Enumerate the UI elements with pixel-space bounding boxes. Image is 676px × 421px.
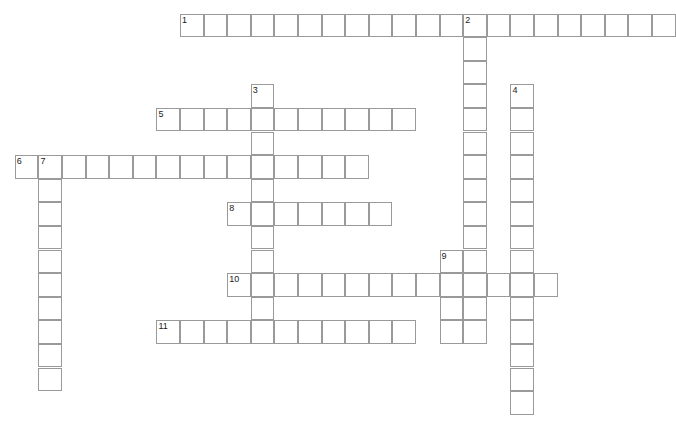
crossword-cell[interactable] bbox=[322, 108, 346, 132]
crossword-cell[interactable] bbox=[251, 273, 275, 297]
crossword-cell[interactable] bbox=[510, 226, 534, 250]
crossword-cell[interactable] bbox=[463, 37, 487, 61]
crossword-cell[interactable] bbox=[392, 108, 416, 132]
crossword-cell[interactable] bbox=[227, 155, 251, 179]
crossword-cell[interactable] bbox=[204, 320, 228, 344]
crossword-cell[interactable] bbox=[298, 155, 322, 179]
crossword-cell[interactable] bbox=[534, 14, 558, 38]
crossword-cell[interactable] bbox=[463, 61, 487, 85]
crossword-cell[interactable] bbox=[440, 250, 464, 274]
crossword-cell[interactable] bbox=[227, 14, 251, 38]
crossword-cell[interactable] bbox=[463, 273, 487, 297]
crossword-cell[interactable] bbox=[38, 202, 62, 226]
crossword-cell[interactable] bbox=[392, 14, 416, 38]
crossword-cell[interactable] bbox=[298, 320, 322, 344]
crossword-cell[interactable] bbox=[628, 14, 652, 38]
crossword-cell[interactable] bbox=[510, 155, 534, 179]
crossword-cell[interactable] bbox=[156, 108, 180, 132]
crossword-cell[interactable] bbox=[345, 108, 369, 132]
crossword-cell[interactable] bbox=[322, 320, 346, 344]
crossword-cell[interactable] bbox=[274, 320, 298, 344]
crossword-cell[interactable] bbox=[345, 273, 369, 297]
crossword-cell[interactable] bbox=[322, 155, 346, 179]
crossword-cell[interactable] bbox=[180, 320, 204, 344]
crossword-cell[interactable] bbox=[463, 179, 487, 203]
crossword-cell[interactable] bbox=[652, 14, 676, 38]
crossword-cell[interactable] bbox=[227, 320, 251, 344]
crossword-cell[interactable] bbox=[38, 320, 62, 344]
crossword-cell[interactable] bbox=[298, 14, 322, 38]
crossword-cell[interactable] bbox=[109, 155, 133, 179]
crossword-cell[interactable] bbox=[487, 273, 511, 297]
crossword-cell[interactable] bbox=[251, 250, 275, 274]
crossword-cell[interactable] bbox=[510, 132, 534, 156]
crossword-cell[interactable] bbox=[133, 155, 157, 179]
crossword-cell[interactable] bbox=[392, 320, 416, 344]
crossword-cell[interactable] bbox=[510, 273, 534, 297]
crossword-cell[interactable] bbox=[15, 155, 39, 179]
crossword-cell[interactable] bbox=[274, 273, 298, 297]
crossword-cell[interactable] bbox=[440, 14, 464, 38]
crossword-cell[interactable] bbox=[298, 202, 322, 226]
crossword-cell[interactable] bbox=[510, 84, 534, 108]
crossword-cell[interactable] bbox=[510, 179, 534, 203]
crossword-cell[interactable] bbox=[251, 108, 275, 132]
crossword-cell[interactable] bbox=[251, 132, 275, 156]
crossword-cell[interactable] bbox=[345, 202, 369, 226]
crossword-cell[interactable] bbox=[416, 273, 440, 297]
crossword-cell[interactable] bbox=[581, 14, 605, 38]
crossword-cell[interactable] bbox=[605, 14, 629, 38]
crossword-cell[interactable] bbox=[38, 368, 62, 392]
crossword-cell[interactable] bbox=[251, 155, 275, 179]
crossword-cell[interactable] bbox=[322, 14, 346, 38]
crossword-cell[interactable] bbox=[463, 155, 487, 179]
crossword-cell[interactable] bbox=[463, 202, 487, 226]
crossword-cell[interactable] bbox=[369, 108, 393, 132]
crossword-cell[interactable] bbox=[463, 297, 487, 321]
crossword-cell[interactable] bbox=[510, 202, 534, 226]
crossword-cell[interactable] bbox=[62, 155, 86, 179]
crossword-cell[interactable] bbox=[227, 202, 251, 226]
crossword-cell[interactable] bbox=[251, 202, 275, 226]
crossword-cell[interactable] bbox=[204, 14, 228, 38]
crossword-cell[interactable] bbox=[510, 250, 534, 274]
crossword-cell[interactable] bbox=[38, 179, 62, 203]
crossword-cell[interactable] bbox=[345, 14, 369, 38]
crossword-cell[interactable] bbox=[251, 297, 275, 321]
crossword-cell[interactable] bbox=[274, 155, 298, 179]
crossword-cell[interactable] bbox=[463, 84, 487, 108]
crossword-cell[interactable] bbox=[180, 155, 204, 179]
crossword-cell[interactable] bbox=[510, 391, 534, 415]
crossword-cell[interactable] bbox=[227, 108, 251, 132]
crossword-cell[interactable] bbox=[487, 14, 511, 38]
crossword-cell[interactable] bbox=[463, 320, 487, 344]
crossword-cell[interactable] bbox=[558, 14, 582, 38]
crossword-cell[interactable] bbox=[86, 155, 110, 179]
crossword-cell[interactable] bbox=[38, 155, 62, 179]
crossword-cell[interactable] bbox=[369, 273, 393, 297]
crossword-cell[interactable] bbox=[251, 84, 275, 108]
crossword-cell[interactable] bbox=[156, 320, 180, 344]
crossword-cell[interactable] bbox=[322, 202, 346, 226]
crossword-cell[interactable] bbox=[463, 108, 487, 132]
crossword-cell[interactable] bbox=[156, 155, 180, 179]
crossword-cell[interactable] bbox=[38, 297, 62, 321]
crossword-cell[interactable] bbox=[345, 320, 369, 344]
crossword-cell[interactable] bbox=[369, 202, 393, 226]
crossword-cell[interactable] bbox=[227, 273, 251, 297]
crossword-cell[interactable] bbox=[392, 273, 416, 297]
crossword-cell[interactable] bbox=[440, 273, 464, 297]
crossword-cell[interactable] bbox=[180, 14, 204, 38]
crossword-cell[interactable] bbox=[440, 320, 464, 344]
crossword-cell[interactable] bbox=[369, 14, 393, 38]
crossword-cell[interactable] bbox=[463, 250, 487, 274]
crossword-cell[interactable] bbox=[463, 14, 487, 38]
crossword-cell[interactable] bbox=[463, 132, 487, 156]
crossword-cell[interactable] bbox=[510, 14, 534, 38]
crossword-cell[interactable] bbox=[251, 320, 275, 344]
crossword-cell[interactable] bbox=[38, 250, 62, 274]
crossword-cell[interactable] bbox=[510, 320, 534, 344]
crossword-cell[interactable] bbox=[38, 226, 62, 250]
crossword-cell[interactable] bbox=[510, 344, 534, 368]
crossword-cell[interactable] bbox=[510, 297, 534, 321]
